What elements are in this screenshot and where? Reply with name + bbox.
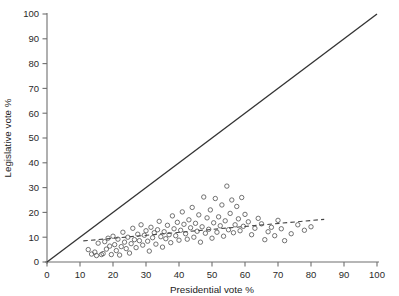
data-points-group — [86, 184, 313, 258]
data-point — [243, 212, 247, 216]
y-tick-label: 20 — [28, 207, 39, 218]
data-point — [276, 218, 280, 222]
data-point — [235, 204, 239, 208]
data-point — [208, 208, 212, 212]
data-point — [228, 211, 232, 215]
data-point — [119, 244, 123, 248]
data-point — [169, 240, 173, 244]
data-point — [124, 246, 128, 250]
x-tick-label: 100 — [369, 269, 385, 280]
x-tick-label: 50 — [207, 269, 218, 280]
data-point — [269, 225, 273, 229]
data-point — [170, 214, 174, 218]
data-point — [187, 218, 191, 222]
data-point — [139, 223, 143, 227]
data-point — [117, 253, 121, 257]
x-tick-label: 30 — [141, 269, 152, 280]
data-point — [112, 242, 116, 246]
y-axis-title: Legislative vote % — [2, 98, 13, 177]
data-point — [198, 240, 202, 244]
data-point — [193, 221, 197, 225]
data-point — [211, 221, 215, 225]
plot-canvas: 0102030405060708090100010203040506070809… — [0, 0, 399, 296]
data-point — [225, 184, 229, 188]
data-point — [177, 238, 181, 242]
data-point — [218, 224, 222, 228]
data-point — [109, 252, 113, 256]
data-point — [86, 247, 90, 251]
data-point — [164, 236, 168, 240]
x-tick-label: 90 — [339, 269, 350, 280]
data-point — [205, 216, 209, 220]
data-point — [144, 229, 148, 233]
data-point — [160, 245, 164, 249]
data-point — [249, 233, 253, 237]
data-point — [246, 220, 250, 224]
x-tick-label: 80 — [306, 269, 317, 280]
data-point — [132, 237, 136, 241]
data-point — [96, 241, 100, 245]
data-point — [154, 242, 158, 246]
y-tick-label: 80 — [28, 58, 39, 69]
data-point — [282, 238, 286, 242]
x-tick-label: 10 — [75, 269, 86, 280]
data-point — [256, 216, 260, 220]
data-point — [134, 245, 138, 249]
y-tick-label: 70 — [28, 83, 39, 94]
data-point — [273, 234, 277, 238]
data-point — [302, 228, 306, 232]
data-point — [223, 219, 227, 223]
y-tick-label: 0 — [34, 256, 39, 267]
data-point — [197, 213, 201, 217]
data-point — [121, 230, 125, 234]
data-point — [213, 196, 217, 200]
data-point — [233, 223, 237, 227]
data-point — [159, 235, 163, 239]
data-point — [127, 251, 131, 255]
data-point — [231, 231, 235, 235]
data-point — [131, 226, 135, 230]
data-point — [221, 234, 225, 238]
data-point — [279, 227, 283, 231]
y-tick-label: 90 — [28, 33, 39, 44]
data-point — [145, 239, 149, 243]
data-point — [174, 234, 178, 238]
data-point — [150, 236, 154, 240]
x-tick-label: 0 — [44, 269, 49, 280]
data-point — [240, 195, 244, 199]
data-point — [203, 231, 207, 235]
x-tick-label: 60 — [240, 269, 251, 280]
scatter-plot-figure: 0102030405060708090100010203040506070809… — [0, 0, 399, 296]
data-point — [149, 225, 153, 229]
data-point — [108, 244, 112, 248]
data-point — [238, 229, 242, 233]
data-point — [180, 210, 184, 214]
data-point — [157, 219, 161, 223]
data-point — [309, 225, 313, 229]
data-point — [200, 225, 204, 229]
y-tick-label: 100 — [23, 8, 39, 19]
data-point — [289, 232, 293, 236]
data-point — [296, 223, 300, 227]
data-point — [185, 237, 189, 241]
data-point — [236, 217, 240, 221]
data-point — [147, 249, 151, 253]
data-point — [266, 230, 270, 234]
data-point — [216, 215, 220, 219]
data-point — [263, 237, 267, 241]
y-tick-label: 10 — [28, 232, 39, 243]
x-tick-label: 70 — [273, 269, 284, 280]
x-axis-title: Presidential vote % — [170, 284, 254, 295]
data-point — [129, 241, 133, 245]
y-tick-label: 50 — [28, 132, 39, 143]
data-point — [172, 227, 176, 231]
data-point — [253, 226, 257, 230]
data-point — [122, 240, 126, 244]
data-point — [190, 205, 194, 209]
data-point — [192, 235, 196, 239]
y-tick-label: 60 — [28, 108, 39, 119]
data-point — [195, 229, 199, 233]
y-tick-label: 30 — [28, 182, 39, 193]
x-tick-label: 20 — [108, 269, 119, 280]
data-point — [175, 220, 179, 224]
